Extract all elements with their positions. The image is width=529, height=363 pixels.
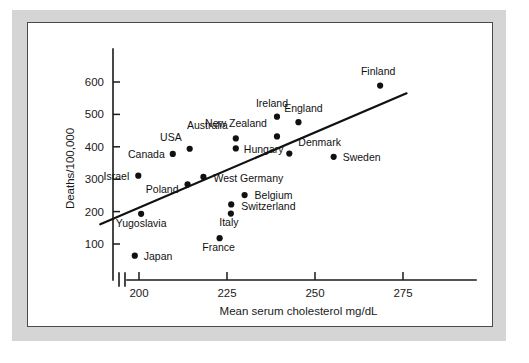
- axis-break-mark: [119, 273, 125, 286]
- data-point-label: Poland: [146, 183, 179, 195]
- data-point-label: Yugoslavia: [116, 217, 167, 229]
- data-point: [184, 181, 190, 187]
- data-point: [286, 151, 292, 157]
- x-axis-tick-labels: 200225250275: [129, 287, 412, 299]
- y-axis: 100200300400500600 Deaths/100,000: [64, 49, 120, 280]
- data-point-label: France: [202, 241, 235, 253]
- x-tick-label: 250: [305, 287, 324, 299]
- data-point: [274, 133, 280, 139]
- data-point: [200, 174, 206, 180]
- x-tick-label: 200: [129, 287, 148, 299]
- data-point-label: Belgium: [255, 189, 293, 201]
- plot-card: 100200300400500600 Deaths/100,000 200225…: [27, 22, 493, 327]
- data-point: [187, 146, 193, 152]
- data-point-label: England: [284, 102, 323, 114]
- data-label-group: FinlandIrelandEnglandNew ZealandAustrali…: [104, 65, 396, 262]
- data-point: [135, 173, 141, 179]
- data-point-label: Israel: [104, 170, 130, 182]
- data-point-label: Denmark: [298, 136, 341, 148]
- data-point: [228, 201, 234, 207]
- data-point: [242, 192, 248, 198]
- y-axis-title: Deaths/100,000: [64, 128, 76, 209]
- x-axis: 200225250275 Mean serum cholesterol mg/d…: [119, 272, 476, 317]
- y-tick-label: 500: [85, 108, 104, 120]
- data-point: [274, 114, 280, 120]
- data-point-label: Switzerland: [241, 200, 295, 212]
- data-point-group: [132, 82, 384, 258]
- x-axis-ticks: [139, 272, 403, 280]
- scatter-plot: 100200300400500600 Deaths/100,000 200225…: [28, 23, 492, 326]
- data-point-label: Hungary: [244, 143, 284, 155]
- y-tick-label: 200: [85, 206, 104, 218]
- data-point-label: Finland: [361, 65, 396, 77]
- y-tick-label: 100: [85, 238, 104, 250]
- data-point-label: Sweden: [343, 151, 381, 163]
- x-tick-label: 275: [393, 287, 412, 299]
- screenshot-root: 100200300400500600 Deaths/100,000 200225…: [0, 0, 529, 363]
- data-point: [295, 119, 301, 125]
- data-point-label: Italy: [219, 216, 239, 228]
- data-point-label: USA: [160, 131, 182, 143]
- data-point: [132, 253, 138, 259]
- y-tick-label: 300: [85, 173, 104, 185]
- x-axis-title: Mean serum cholesterol mg/dL: [220, 305, 378, 317]
- data-point-label: West Germany: [213, 172, 284, 184]
- data-point: [170, 151, 176, 157]
- data-point: [233, 145, 239, 151]
- y-tick-label: 600: [85, 76, 104, 88]
- data-point: [233, 135, 239, 141]
- data-point-label: Australia: [187, 119, 228, 131]
- y-tick-label: 400: [85, 141, 104, 153]
- x-tick-label: 225: [217, 287, 236, 299]
- data-point-label: Japan: [144, 250, 173, 262]
- data-point: [377, 82, 383, 88]
- data-point: [331, 154, 337, 160]
- data-point-label: Canada: [128, 148, 165, 160]
